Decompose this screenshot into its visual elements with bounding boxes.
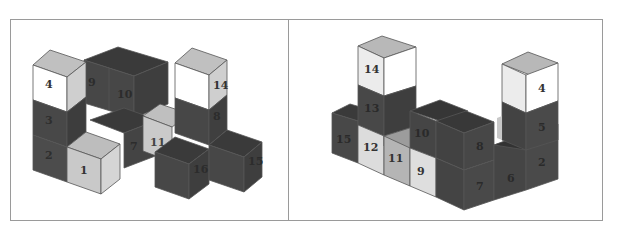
svg-text:8: 8 — [476, 140, 484, 153]
svg-text:11: 11 — [388, 152, 403, 165]
right-panel-cubes: 14 13 15 12 11 9 10 8 7 6 2 4 5 — [288, 0, 628, 231]
svg-text:14: 14 — [364, 63, 380, 76]
svg-text:7: 7 — [476, 180, 484, 193]
svg-text:2: 2 — [45, 149, 53, 162]
svg-text:15: 15 — [248, 155, 263, 168]
svg-text:10: 10 — [117, 88, 133, 101]
svg-text:12: 12 — [363, 141, 378, 154]
cube-label-4: 4 — [45, 78, 53, 91]
svg-text:9: 9 — [88, 76, 96, 89]
svg-text:1: 1 — [80, 164, 88, 177]
svg-text:9: 9 — [417, 165, 425, 178]
svg-text:6: 6 — [507, 172, 515, 185]
svg-text:4: 4 — [538, 82, 546, 95]
left-panel-cubes: 4 3 2 1 9 10 7 11 14 8 16 15 — [0, 0, 288, 231]
svg-text:13: 13 — [364, 102, 379, 115]
svg-text:11: 11 — [150, 136, 165, 149]
svg-text:5: 5 — [538, 121, 546, 134]
svg-text:7: 7 — [130, 140, 138, 153]
svg-text:2: 2 — [538, 156, 546, 169]
svg-text:16: 16 — [193, 163, 209, 176]
svg-text:3: 3 — [45, 114, 53, 127]
svg-text:10: 10 — [414, 127, 430, 140]
svg-text:15: 15 — [336, 133, 351, 146]
svg-text:14: 14 — [213, 79, 229, 92]
svg-text:8: 8 — [213, 110, 221, 123]
